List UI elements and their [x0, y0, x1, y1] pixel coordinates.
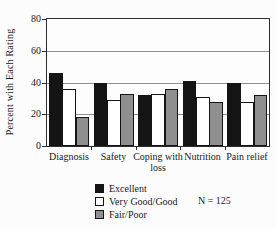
bar-excellent-2 — [138, 95, 152, 146]
legend-item: Very Good/Good — [95, 195, 178, 208]
y-axis-title: Percent with Each Rating — [4, 29, 15, 136]
bar-fair-poor-0 — [76, 117, 90, 146]
legend-swatch-fair-poor — [95, 210, 104, 219]
y-tick-label: 40 — [15, 78, 41, 88]
legend-label: Excellent — [109, 184, 147, 194]
legend-swatch-excellent — [95, 184, 104, 193]
plot-area: 020406080DiagnosisSafetyCoping with loss… — [46, 18, 270, 147]
y-tick — [42, 83, 47, 84]
sample-size-note: N = 125 — [198, 196, 231, 206]
x-tick — [180, 146, 181, 150]
x-tick — [225, 146, 226, 150]
y-tick — [42, 146, 47, 147]
x-category-label: Pain relief — [221, 151, 273, 162]
bar-fair-poor-4 — [254, 95, 268, 146]
legend-item: Excellent — [95, 182, 178, 195]
bar-very-good-good-2 — [151, 94, 165, 146]
bar-excellent-1 — [94, 83, 108, 147]
figure: Percent with Each Rating 020406080Diagno… — [0, 0, 276, 228]
bar-excellent-4 — [227, 83, 241, 147]
x-tick — [136, 146, 137, 150]
bar-very-good-good-0 — [62, 89, 76, 146]
gridline-60 — [47, 51, 269, 52]
y-tick — [42, 19, 47, 20]
bar-very-good-good-1 — [107, 100, 121, 146]
legend-item: Fair/Poor — [95, 208, 178, 221]
bar-fair-poor-2 — [165, 89, 179, 146]
y-tick-label: 20 — [15, 109, 41, 119]
bar-very-good-good-4 — [240, 102, 254, 146]
legend: ExcellentVery Good/GoodFair/Poor — [95, 182, 178, 221]
bar-excellent-3 — [183, 81, 197, 146]
x-tick — [91, 146, 92, 150]
y-tick-label: 80 — [15, 14, 41, 24]
legend-swatch-very-good-good — [95, 197, 104, 206]
y-tick — [42, 114, 47, 115]
bar-very-good-good-3 — [196, 97, 210, 146]
y-tick — [42, 51, 47, 52]
bar-excellent-0 — [49, 73, 63, 146]
y-tick-label: 0 — [15, 141, 41, 151]
bar-fair-poor-1 — [120, 94, 134, 146]
legend-label: Very Good/Good — [109, 197, 178, 207]
y-tick-label: 60 — [15, 46, 41, 56]
legend-label: Fair/Poor — [109, 210, 147, 220]
bar-fair-poor-3 — [209, 102, 223, 146]
